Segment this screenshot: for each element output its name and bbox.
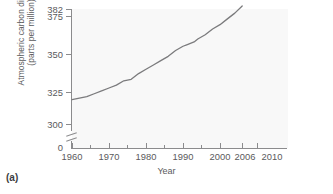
x-axis-title: Year (0, 166, 333, 176)
x-tick-2006 (242, 143, 243, 149)
y-tick-label-375: 375 (23, 11, 63, 22)
x-tick-label-2010: 2010 (252, 151, 292, 162)
y-tick-label-350: 350 (23, 49, 63, 60)
x-tick-2000 (220, 143, 221, 149)
x-tick-minor-1965 (90, 145, 91, 149)
y-axis-line (71, 9, 72, 131)
x-tick-1960 (72, 143, 73, 149)
y-tick-label-300: 300 (23, 119, 63, 130)
x-tick-label-1960: 1960 (52, 151, 92, 162)
y-tick-300 (66, 124, 72, 125)
y-tick-325 (66, 92, 72, 93)
plot-area (72, 9, 288, 148)
x-tick-minor-1995 (201, 145, 202, 149)
x-tick-1990 (183, 143, 184, 149)
y-tick-label-325: 325 (23, 87, 63, 98)
x-tick-minor-1985 (164, 145, 165, 149)
y-tick-375 (66, 16, 72, 17)
figure-panel-a: Atmospheric carbon dioxide (parts per mi… (0, 0, 333, 194)
y-tick-350 (66, 54, 72, 55)
x-tick-label-1970: 1970 (89, 151, 129, 162)
x-tick-1970 (109, 143, 110, 149)
panel-label: (a) (6, 172, 18, 183)
x-axis-line (71, 148, 287, 149)
x-tick-2010 (257, 143, 258, 149)
x-tick-label-1980: 1980 (126, 151, 166, 162)
x-tick-1980 (146, 143, 147, 149)
x-tick-label-1990: 1990 (163, 151, 203, 162)
y-tick-382 (66, 9, 72, 10)
y-axis-break-icon (66, 132, 78, 142)
x-tick-minor-1975 (127, 145, 128, 149)
